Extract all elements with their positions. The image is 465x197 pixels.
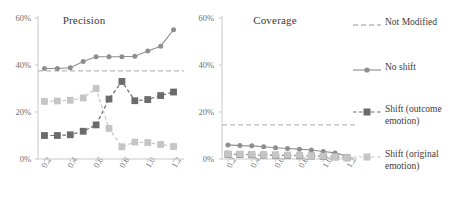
legend-item-shift-original[interactable]: Shift (original emotion) — [352, 150, 465, 176]
legend-key-no-shift-icon — [352, 63, 382, 77]
legend-item-not-modified[interactable]: Not Modified — [352, 18, 465, 44]
legend-label-not-modified: Not Modified — [385, 17, 465, 29]
legend: Not Modified No shift Shift (outcome emo… — [352, 0, 465, 197]
figure-root: Precision 60% 40% 20% 0% 0.2 0.4 0.6 0.8… — [0, 0, 465, 197]
legend-label-shift-outcome: Shift (outcome emotion) — [385, 104, 465, 127]
chart-panel-coverage: Coverage 60% 40% 20% 0% 0.2 0.4 0.6 0.8 … — [190, 0, 355, 197]
legend-item-shift-outcome[interactable]: Shift (outcome emotion) — [352, 105, 465, 131]
chart-panel-precision: Precision 60% 40% 20% 0% 0.2 0.4 0.6 0.8… — [0, 0, 195, 197]
plot-area-precision — [0, 0, 195, 197]
legend-label-shift-original: Shift (original emotion) — [385, 149, 465, 172]
legend-key-shift-outcome-icon — [352, 105, 382, 119]
legend-label-no-shift: No shift — [385, 62, 465, 74]
legend-key-not-modified-icon — [352, 18, 382, 32]
legend-item-no-shift[interactable]: No shift — [352, 63, 465, 89]
plot-area-coverage — [190, 0, 355, 197]
legend-key-shift-original-icon — [352, 150, 382, 164]
